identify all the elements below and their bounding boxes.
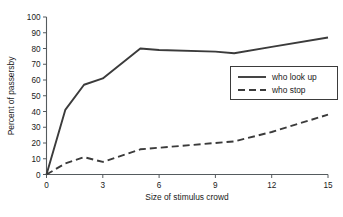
x-tick-label: 6 — [157, 181, 162, 190]
x-tick-label: 12 — [267, 181, 277, 190]
x-tick-label: 9 — [213, 181, 218, 190]
legend: who look up who stop — [231, 67, 338, 100]
x-tick-label: 0 — [44, 181, 49, 190]
y-tick-label: 10 — [31, 155, 41, 164]
y-tick-label: 20 — [31, 139, 41, 148]
x-tick-label: 3 — [101, 181, 106, 190]
chart-figure: 0102030405060708090100 Percent of passer… — [0, 0, 343, 217]
y-tick-label: 70 — [31, 60, 41, 69]
y-tick-label: 0 — [36, 171, 41, 180]
y-axis-title: Percent of passersby — [6, 56, 16, 135]
y-tick-label: 90 — [31, 29, 41, 38]
y-tick-label: 50 — [31, 92, 41, 101]
x-axis-title: Size of stimulus crowd — [145, 192, 229, 202]
y-tick-label: 80 — [31, 45, 41, 54]
line-chart: 0102030405060708090100 Percent of passer… — [0, 0, 343, 217]
chart-background — [0, 0, 343, 217]
y-tick-label: 60 — [31, 76, 41, 85]
legend-label-who-stop: who stop — [271, 85, 306, 95]
legend-label-who-look-up: who look up — [271, 72, 317, 82]
y-tick-label: 100 — [27, 13, 41, 22]
x-tick-label: 15 — [323, 181, 333, 190]
y-tick-label: 30 — [31, 123, 41, 132]
y-tick-label: 40 — [31, 108, 41, 117]
